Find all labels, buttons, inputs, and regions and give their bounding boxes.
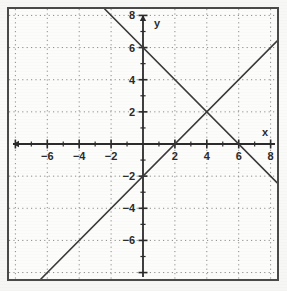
y-tick-label: −4: [122, 202, 135, 214]
x-tick-label: 6: [236, 150, 242, 162]
plot-frame: −6−4−224688642−2−4−6 xy: [7, 7, 279, 281]
axis-name-labels: xy: [154, 17, 269, 138]
data-line-descending-line: [105, 9, 277, 183]
plot-area: −6−4−224688642−2−4−6 xy: [9, 9, 277, 279]
x-tick-label: 8: [268, 150, 274, 162]
coordinate-plane-svg: −6−4−224688642−2−4−6 xy: [9, 9, 277, 279]
y-tick-label: −2: [122, 170, 135, 182]
axis-lines: [13, 15, 275, 277]
x-axis-label: x: [262, 126, 269, 138]
y-tick-label: −6: [122, 234, 135, 246]
x-tick-label: 2: [172, 150, 178, 162]
x-tick-label: −6: [41, 150, 54, 162]
x-tick-label: −4: [73, 150, 86, 162]
y-axis-label: y: [154, 17, 161, 29]
y-tick-label: 2: [129, 106, 135, 118]
y-tick-label: 6: [129, 42, 135, 54]
graph-screenshot: −6−4−224688642−2−4−6 xy: [0, 0, 287, 291]
x-tick-label: 4: [204, 150, 211, 162]
x-tick-label: −2: [105, 150, 118, 162]
y-tick-label: 8: [129, 9, 135, 21]
y-tick-label: 4: [129, 74, 136, 86]
